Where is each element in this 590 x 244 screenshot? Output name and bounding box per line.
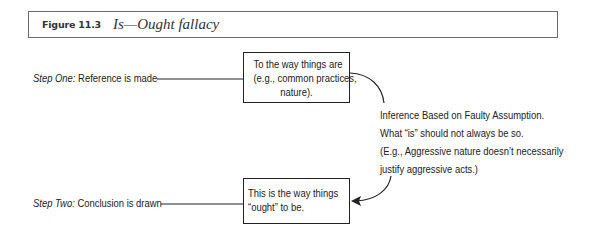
inference-note-line: justify aggressive acts.) [380,160,563,178]
step-two-text: Conclusion is drawn [75,197,162,209]
inference-curve-bottom [356,176,391,201]
inference-note-line: What “is” should not always be so. [380,124,563,142]
inference-note: Inference Based on Faulty Assumption. Wh… [380,106,563,178]
step-two-label: Step Two: Conclusion is drawn [33,197,162,209]
step-one-label: Step One: Reference is made [33,72,157,84]
reference-box-line: nature). [253,85,339,99]
conclusion-box-line: “ought” to be. [248,200,331,214]
step-one-text: Reference is made [75,72,157,84]
inference-note-line: (E.g., Aggressive nature doesn’t necessa… [380,142,563,160]
step-two-prefix: Step Two: [33,197,75,209]
reference-box-line: (e.g., common practices, [253,71,339,85]
reference-box-line: To the way things are [253,57,339,71]
inference-note-line: Inference Based on Faulty Assumption. [380,106,563,124]
reference-box: To the way things are (e.g., common prac… [243,52,350,103]
conclusion-box: This is the way things “ought” to be. [243,178,350,224]
conclusion-box-line: This is the way things [248,186,331,200]
step-one-prefix: Step One: [33,72,75,84]
